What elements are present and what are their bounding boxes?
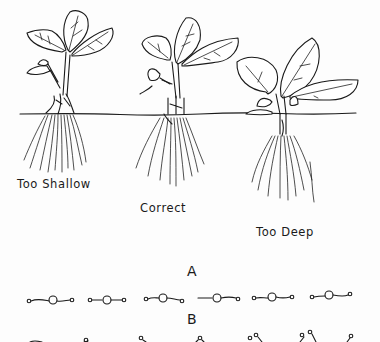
- illustration-drawing: [0, 0, 380, 342]
- row-b-label: B: [187, 311, 197, 327]
- plant-correct: [136, 18, 238, 186]
- row-b-plants: [30, 330, 353, 342]
- label-correct: Correct: [140, 201, 186, 215]
- planting-depth-illustration: Too Shallow Correct Too Deep A B: [0, 0, 380, 342]
- row-a-plants: [27, 291, 352, 304]
- plant-too-shallow: [24, 11, 113, 172]
- row-a-label: A: [187, 263, 197, 279]
- plant-too-deep: [237, 38, 358, 202]
- label-too-deep: Too Deep: [256, 225, 314, 239]
- label-too-shallow: Too Shallow: [17, 177, 91, 191]
- soil-line: [20, 113, 356, 115]
